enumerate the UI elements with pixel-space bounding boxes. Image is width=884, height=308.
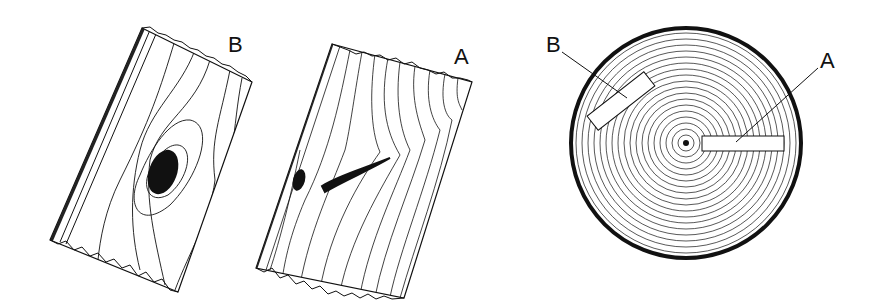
- log-cut-a: [702, 136, 784, 151]
- board-a-label: A: [454, 46, 469, 68]
- log-label-a: A: [820, 50, 835, 72]
- board-a-drawing: [256, 44, 472, 299]
- log-label-b: B: [546, 34, 561, 56]
- board-b-drawing: [50, 27, 252, 292]
- wood-grain-diagram: [0, 0, 884, 308]
- board-b-label: B: [228, 34, 243, 56]
- log-cross-section: [562, 28, 818, 258]
